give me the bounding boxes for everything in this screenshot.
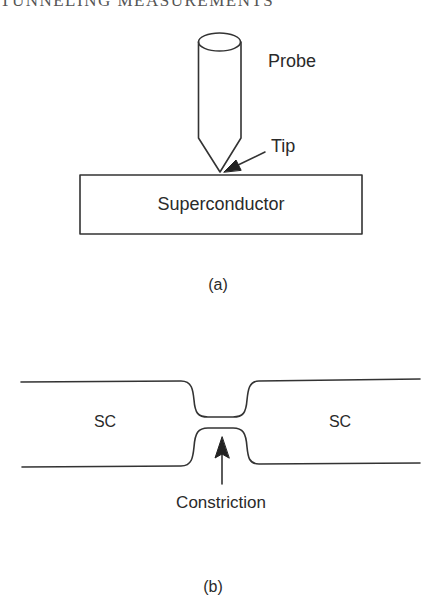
constriction-arrow <box>215 437 229 484</box>
caption-a: (a) <box>168 277 268 293</box>
constriction-label: Constriction <box>140 494 302 511</box>
caption-b: (b) <box>163 579 263 595</box>
superconductor-label: Superconductor <box>80 195 362 213</box>
probe-label: Probe <box>268 52 316 70</box>
probe-shape <box>199 33 242 172</box>
figure: TUNNELING MEASUREMENTS Prob <box>0 0 445 606</box>
right-sc-label: SC <box>310 414 370 430</box>
tip-label: Tip <box>271 137 295 155</box>
diagram-canvas <box>0 0 445 606</box>
left-sc-label: SC <box>75 414 135 430</box>
upper-boundary <box>21 379 420 417</box>
